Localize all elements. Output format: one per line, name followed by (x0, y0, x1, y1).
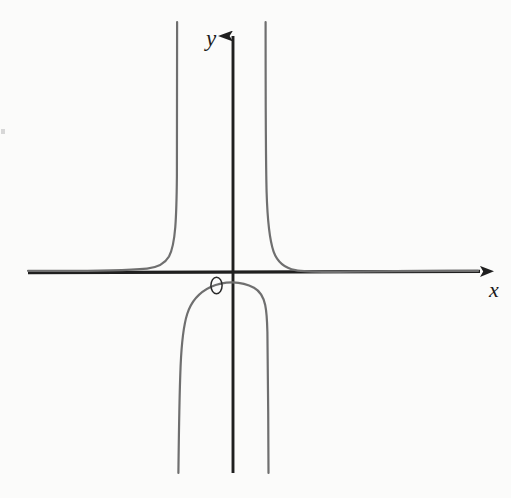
y-axis-label: y (206, 27, 216, 50)
curve-left-branch (28, 22, 177, 271)
scan-artifact-speck (1, 129, 5, 134)
curve-right-branch (266, 22, 478, 272)
figure-canvas: y x O (0, 0, 511, 498)
curve-middle-branch (178, 282, 268, 473)
x-axis-label: x (489, 279, 499, 301)
graph-plot (0, 0, 511, 498)
